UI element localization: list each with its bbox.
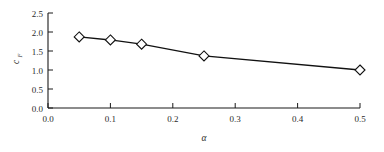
y-tick-label-2_0: 2.0 xyxy=(32,28,44,38)
series-line-cf xyxy=(79,37,360,70)
x-axis-title: α xyxy=(202,133,208,143)
x-tick-label-0_0: 0.0 xyxy=(42,114,54,124)
y-tick-label-2_5: 2.5 xyxy=(32,9,44,19)
y-tick-label-1_0: 1.0 xyxy=(32,66,44,76)
line-chart-plot: 2.5 2.0 1.5 1.0 0.5 0.0 0.0 0.1 0.2 0.3 … xyxy=(0,0,384,152)
series-markers-cf xyxy=(74,32,365,75)
y-axis-title-subscript: F xyxy=(16,53,23,59)
data-point-marker xyxy=(137,39,147,49)
y-tick-label-0_5: 0.5 xyxy=(32,85,44,95)
x-axis-tick-labels: 0.0 0.1 0.2 0.3 0.4 0.5 xyxy=(42,114,366,124)
data-point-marker xyxy=(199,51,209,61)
y-axis-title: c F xyxy=(11,53,23,65)
y-axis-tick-labels: 2.5 2.0 1.5 1.0 0.5 0.0 xyxy=(32,9,44,114)
y-tick-label-0_0: 0.0 xyxy=(32,104,44,114)
y-tick-label-1_5: 1.5 xyxy=(32,47,44,57)
x-tick-label-0_3: 0.3 xyxy=(230,114,242,124)
x-tick-label-0_2: 0.2 xyxy=(167,114,178,124)
x-tick-label-0_4: 0.4 xyxy=(292,114,304,124)
y-axis-tickmarks xyxy=(48,13,53,108)
x-axis-tickmarks xyxy=(48,103,360,108)
data-point-marker xyxy=(105,35,115,45)
x-tick-label-0_5: 0.5 xyxy=(354,114,366,124)
y-axis-title-base: c xyxy=(11,59,21,64)
data-point-marker xyxy=(74,32,84,42)
chart-figure: 2.5 2.0 1.5 1.0 0.5 0.0 0.0 0.1 0.2 0.3 … xyxy=(0,0,384,152)
x-tick-label-0_1: 0.1 xyxy=(105,114,116,124)
data-point-marker xyxy=(355,65,365,75)
